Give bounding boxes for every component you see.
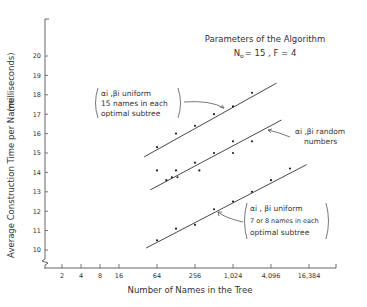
y-tick-label: 19 bbox=[33, 72, 41, 80]
svg-text:(milliseconds): (milliseconds) bbox=[6, 52, 16, 111]
y-axis bbox=[42, 19, 49, 269]
annotation-arrow bbox=[218, 212, 243, 222]
data-point bbox=[232, 140, 234, 142]
data-point bbox=[213, 208, 215, 210]
fit-line bbox=[144, 83, 276, 157]
y-tick-label: 11 bbox=[33, 227, 41, 235]
data-point bbox=[270, 179, 272, 181]
chart-title: Parameters of the Algorithm bbox=[205, 34, 326, 44]
data-point bbox=[175, 169, 177, 171]
fit-line bbox=[150, 120, 281, 190]
data-point bbox=[251, 92, 253, 94]
data-point bbox=[194, 125, 196, 127]
data-point bbox=[171, 176, 173, 178]
data-point bbox=[213, 152, 215, 154]
x-tick-label: 256 bbox=[189, 272, 201, 280]
x-tick-label: 64 bbox=[153, 272, 161, 280]
svg-text:optimal subtree: optimal subtree bbox=[101, 109, 161, 118]
y-tick-label: 18 bbox=[33, 91, 41, 99]
x-tick-label: 4 bbox=[79, 272, 83, 280]
data-point bbox=[232, 105, 234, 107]
x-tick-label: 8 bbox=[98, 272, 102, 280]
x-tick-label: 4,096 bbox=[262, 272, 281, 280]
x-tick-label: 2 bbox=[60, 272, 64, 280]
series-1 bbox=[144, 83, 276, 157]
data-point bbox=[198, 169, 200, 171]
data-point bbox=[251, 140, 253, 142]
svg-text:αi , βi uniform: αi , βi uniform bbox=[250, 204, 303, 213]
data-point bbox=[156, 239, 158, 241]
annotation-arrow bbox=[184, 102, 224, 108]
x-tick-label: 16 bbox=[115, 272, 123, 280]
data-point bbox=[156, 169, 158, 171]
data-point bbox=[194, 162, 196, 164]
y-tick-label: 16 bbox=[33, 130, 41, 138]
svg-text:Average Construction Time per: Average Construction Time per Name bbox=[6, 98, 16, 258]
y-tick-label: 15 bbox=[33, 149, 41, 157]
series-2 bbox=[150, 120, 281, 190]
svg-text:αi ,βi uniform: αi ,βi uniform bbox=[101, 89, 151, 98]
data-point bbox=[232, 200, 234, 202]
y-tick-label: 12 bbox=[33, 208, 41, 216]
annotation-arrow bbox=[268, 130, 290, 137]
data-point bbox=[175, 133, 177, 135]
y-tick-label: 10 bbox=[33, 246, 41, 254]
svg-text:numbers: numbers bbox=[304, 137, 337, 146]
data-point bbox=[232, 152, 234, 154]
data-point bbox=[251, 191, 253, 193]
data-point bbox=[289, 167, 291, 169]
data-point bbox=[176, 176, 178, 178]
annotation-top: αi ,βi uniform 15 names in each optimal … bbox=[96, 88, 225, 118]
y-tick-label: 14 bbox=[33, 169, 41, 177]
svg-text:7 or 8 names in each: 7 or 8 names in each bbox=[250, 217, 319, 225]
x-tick-label: 1,024 bbox=[224, 272, 243, 280]
annotation-middle: αi ,βi random numbers bbox=[268, 127, 345, 146]
svg-text:15 names in each: 15 names in each bbox=[101, 99, 168, 108]
data-point bbox=[165, 179, 167, 181]
y-tick-label: 13 bbox=[33, 188, 41, 196]
x-tick-label: 16,384 bbox=[298, 272, 321, 280]
data-point bbox=[156, 146, 158, 148]
svg-text:αi ,βi random: αi ,βi random bbox=[295, 127, 345, 136]
svg-text:optimal subtree: optimal subtree bbox=[250, 228, 310, 237]
y-tick-label: 20 bbox=[33, 52, 41, 60]
chart-subtitle: No= 15 , F = 4 bbox=[234, 48, 297, 59]
x-ticks: 24816642561,0244,09616,384 bbox=[60, 264, 320, 280]
data-point bbox=[213, 113, 215, 115]
chart: 1011121314151617181920 24816642561,0244,… bbox=[0, 0, 367, 307]
data-point bbox=[194, 224, 196, 226]
x-axis bbox=[45, 264, 336, 268]
y-tick-label: 17 bbox=[33, 111, 41, 119]
annotation-bottom: αi , βi uniform 7 or 8 names in each opt… bbox=[218, 203, 329, 239]
y-axis-title: Average Construction Time per Name (mill… bbox=[6, 52, 16, 257]
data-point bbox=[175, 228, 177, 230]
y-ticks: 1011121314151617181920 bbox=[33, 52, 48, 254]
x-axis-title: Number of Names in the Tree bbox=[128, 285, 253, 295]
